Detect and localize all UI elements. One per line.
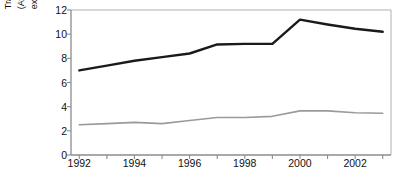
series-line-upper-series xyxy=(79,20,382,71)
series-line-lower-series xyxy=(79,111,382,125)
plot-frame xyxy=(71,10,391,155)
trade-integration-line-chart: Trade integration index (Average value o… xyxy=(0,0,402,180)
axis-ticks xyxy=(67,10,383,159)
plot-area xyxy=(0,0,402,180)
data-series-group xyxy=(79,20,382,125)
